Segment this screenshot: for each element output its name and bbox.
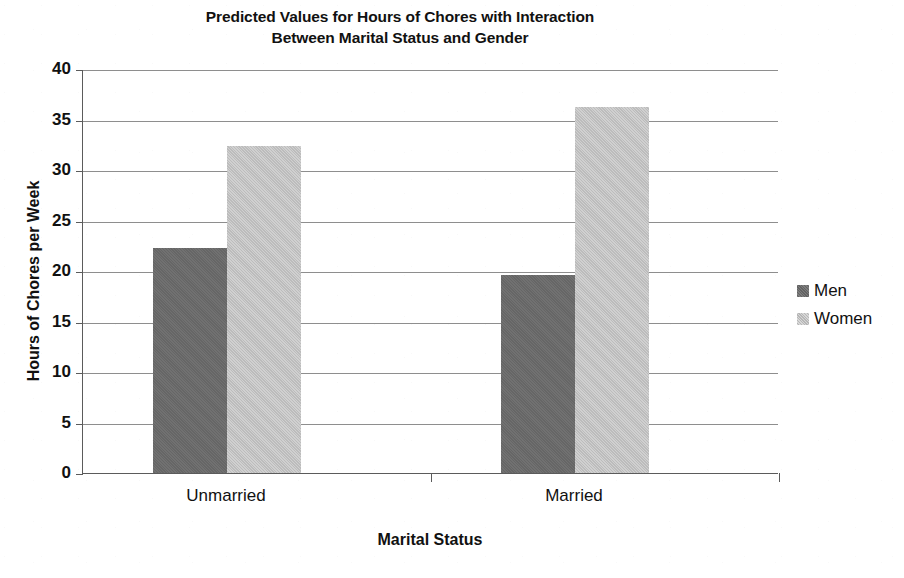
legend-swatch-women-icon bbox=[797, 313, 809, 325]
chart-root: Predicted Values for Hours of Chores wit… bbox=[0, 0, 904, 578]
y-tick-25 bbox=[76, 222, 83, 223]
y-tick-0 bbox=[76, 474, 83, 475]
legend-label-men: Men bbox=[814, 281, 847, 301]
y-tick-10 bbox=[76, 373, 83, 374]
y-axis-title: Hours of Chores per Week bbox=[25, 151, 43, 411]
category-label-married: Married bbox=[500, 486, 648, 506]
y-tick-30 bbox=[76, 171, 83, 172]
y-tick-40 bbox=[76, 70, 83, 71]
category-label-unmarried: Unmarried bbox=[152, 486, 300, 506]
legend-item-men[interactable]: Men bbox=[797, 277, 872, 305]
chart-title-line-2: Between Marital Status and Gender bbox=[0, 27, 800, 48]
bar-unmarried-women[interactable] bbox=[227, 146, 301, 473]
bar-married-women[interactable] bbox=[575, 107, 649, 473]
legend-item-women[interactable]: Women bbox=[797, 305, 872, 333]
gridline-25 bbox=[83, 222, 778, 223]
y-tick-15 bbox=[76, 323, 83, 324]
chart-title-line-1: Predicted Values for Hours of Chores wit… bbox=[206, 8, 594, 25]
bar-unmarried-men[interactable] bbox=[153, 248, 227, 473]
y-axis-label-5: 5 bbox=[25, 413, 71, 433]
x-axis-title: Marital Status bbox=[82, 531, 778, 549]
gridline-30 bbox=[83, 171, 778, 172]
legend-label-women: Women bbox=[814, 309, 872, 329]
gridline-40 bbox=[83, 70, 778, 71]
plot-area: 40 35 30 25 20 15 10 5 0 bbox=[82, 70, 778, 474]
chart-title: Predicted Values for Hours of Chores wit… bbox=[0, 6, 800, 48]
category-axis-separator bbox=[431, 473, 432, 482]
y-axis-label-35: 35 bbox=[25, 110, 71, 130]
bar-married-men[interactable] bbox=[501, 275, 575, 473]
gridline-35 bbox=[83, 121, 778, 122]
legend-swatch-men-icon bbox=[797, 285, 809, 297]
category-axis-end-tick bbox=[779, 473, 780, 482]
chart-legend: Men Women bbox=[797, 277, 872, 333]
y-tick-35 bbox=[76, 121, 83, 122]
y-tick-20 bbox=[76, 272, 83, 273]
y-axis-label-0: 0 bbox=[25, 463, 71, 483]
y-tick-5 bbox=[76, 424, 83, 425]
y-axis-label-40: 40 bbox=[25, 59, 71, 79]
